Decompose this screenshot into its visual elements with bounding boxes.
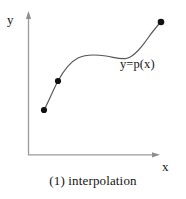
interpolation-figure: y x y=p(x) (1) interpolation bbox=[0, 0, 186, 199]
curve-equation-label: y=p(x) bbox=[120, 58, 155, 71]
y-axis-arrowhead bbox=[26, 11, 31, 19]
plot-canvas bbox=[0, 0, 186, 199]
data-point bbox=[41, 107, 47, 113]
y-axis-label: y bbox=[7, 13, 14, 26]
x-axis-label: x bbox=[162, 160, 169, 173]
data-point bbox=[55, 78, 61, 84]
x-axis bbox=[28, 152, 160, 157]
figure-caption: (1) interpolation bbox=[0, 174, 186, 188]
x-axis-arrowhead bbox=[152, 152, 160, 157]
y-axis bbox=[26, 11, 31, 155]
data-point bbox=[158, 19, 165, 26]
